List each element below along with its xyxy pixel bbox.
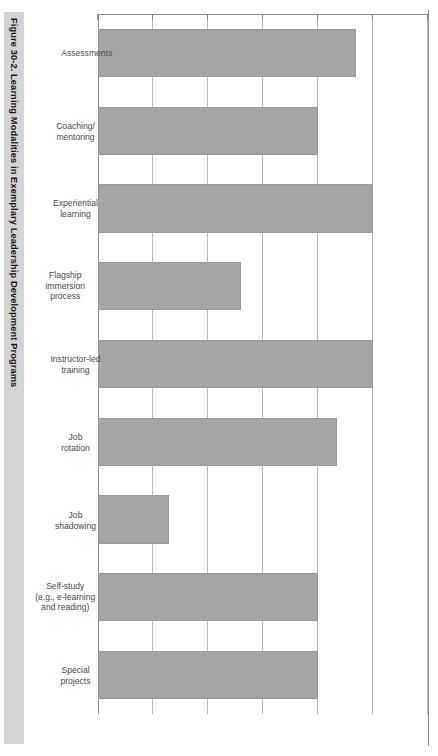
bar-assessments — [98, 29, 357, 77]
axis-tick-label: 120% — [412, 0, 438, 2]
bar-special-projects — [98, 651, 318, 699]
axis-tick-label: 0% — [82, 0, 116, 2]
axis-tick-label: 80% — [302, 0, 336, 2]
category-label: Experiential learning — [39, 198, 113, 219]
bar-self-study-e-g-e-learning-and-reading — [98, 573, 318, 621]
chart-rotated-wrapper: 0%20%40%60%80%100%120%AssessmentsCoachin… — [36, 14, 428, 714]
category-label: Special projects — [39, 665, 113, 686]
bar-coaching-mentoring — [98, 107, 318, 155]
value-axis-spine — [98, 14, 428, 15]
category-label: Coaching/ mentoring — [39, 120, 113, 141]
category-label: Job rotation — [39, 431, 113, 452]
bar-chart-plot-area: 0%20%40%60%80%100%120%AssessmentsCoachin… — [98, 14, 428, 714]
page-edge-rule — [428, 10, 429, 746]
bar-flagship-immersion-process — [98, 262, 241, 310]
gridline — [427, 14, 428, 714]
figure-title-banner: Figure 30-2. Learning Modalities in Exem… — [4, 12, 24, 744]
category-label: Job shadowing — [39, 509, 113, 530]
bar-experiential-learning — [98, 184, 373, 232]
category-label: Assessments — [50, 48, 124, 59]
axis-tick-label: 40% — [192, 0, 226, 2]
category-label: Instructor-led training — [39, 354, 113, 375]
bar-job-rotation — [98, 418, 337, 466]
category-label: Self-study (e.g., e-learning and reading… — [29, 582, 103, 614]
axis-tick-label: 60% — [247, 0, 281, 2]
axis-tick-label: 100% — [357, 0, 391, 2]
category-label: Flagship immersion process — [29, 270, 103, 302]
figure-page: Figure 30-2. Learning Modalities in Exem… — [0, 0, 438, 756]
bar-instructor-led-training — [98, 340, 373, 388]
axis-tick-label: 20% — [137, 0, 171, 2]
page-title: Figure 30-2. Learning Modalities in Exem… — [9, 12, 19, 387]
